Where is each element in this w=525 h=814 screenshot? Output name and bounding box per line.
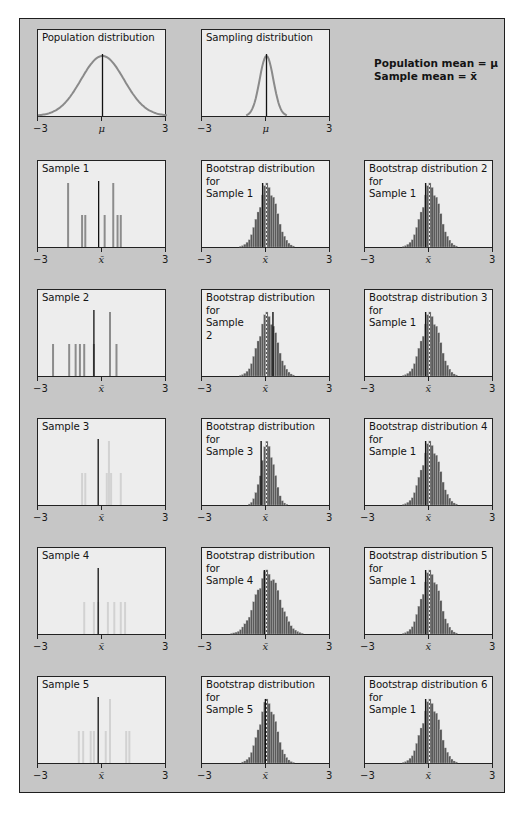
x-axis-ticks bbox=[37, 247, 168, 253]
tick-min-label: −3 bbox=[197, 770, 212, 781]
tick-min-label: −3 bbox=[197, 512, 212, 523]
tick-max-label: 3 bbox=[162, 254, 168, 265]
panel-title: Bootstrap distribution 5 for Sample 1 bbox=[369, 550, 487, 588]
x-axis-ticks bbox=[364, 505, 495, 511]
tick-center-label: x̄ bbox=[426, 512, 432, 523]
panel-sample1: Sample 1 bbox=[37, 160, 166, 248]
x-axis-ticks bbox=[201, 763, 332, 769]
tick-max-label: 3 bbox=[326, 770, 332, 781]
tick-max-label: 3 bbox=[162, 123, 168, 134]
x-axis-ticks bbox=[37, 763, 168, 769]
tick-max-label: 3 bbox=[162, 383, 168, 394]
tick-max-label: 3 bbox=[162, 641, 168, 652]
tick-center-label: x̄ bbox=[263, 770, 269, 781]
x-axis-ticks bbox=[201, 116, 332, 122]
panel-sampling: Sampling distribution bbox=[201, 29, 330, 117]
tick-max-label: 3 bbox=[326, 641, 332, 652]
tick-center-label: x̄ bbox=[99, 512, 105, 523]
panel-title: Sample 5 bbox=[42, 679, 89, 692]
x-axis-ticks bbox=[37, 505, 168, 511]
panel-boot5s1: Bootstrap distribution 5 for Sample 1 bbox=[364, 547, 493, 635]
panel-title: Sample 4 bbox=[42, 550, 89, 563]
tick-center-label: x̄ bbox=[99, 383, 105, 394]
panel-population: Population distribution bbox=[37, 29, 166, 117]
tick-center-label: x̄ bbox=[426, 254, 432, 265]
tick-center-label: x̄ bbox=[263, 383, 269, 394]
panel-boot2: Bootstrap distribution for Sample 2 bbox=[201, 289, 330, 377]
panel-title: Sampling distribution bbox=[206, 32, 313, 45]
panel-boot4s1: Bootstrap distribution 4 for Sample 1 bbox=[364, 418, 493, 506]
tick-max-label: 3 bbox=[326, 123, 332, 134]
panel-boot4: Bootstrap distribution for Sample 4 bbox=[201, 547, 330, 635]
panel-title: Bootstrap distribution 6 for Sample 1 bbox=[369, 679, 487, 717]
tick-min-label: −3 bbox=[197, 383, 212, 394]
tick-max-label: 3 bbox=[326, 512, 332, 523]
tick-center-label: x̄ bbox=[99, 254, 105, 265]
legend-population-mean: Population mean = μ bbox=[374, 57, 498, 70]
tick-max-label: 3 bbox=[162, 512, 168, 523]
tick-min-label: −3 bbox=[33, 770, 48, 781]
panel-title: Population distribution bbox=[42, 32, 155, 45]
panel-boot3: Bootstrap distribution for Sample 3 bbox=[201, 418, 330, 506]
tick-center-label: x̄ bbox=[99, 770, 105, 781]
panel-sample2: Sample 2 bbox=[37, 289, 166, 377]
x-axis-ticks bbox=[37, 634, 168, 640]
panel-boot1: Bootstrap distribution for Sample 1 bbox=[201, 160, 330, 248]
tick-max-label: 3 bbox=[162, 770, 168, 781]
panel-title: Bootstrap distribution for Sample 2 bbox=[206, 292, 315, 342]
tick-min-label: −3 bbox=[360, 512, 375, 523]
x-axis-ticks bbox=[201, 376, 332, 382]
tick-min-label: −3 bbox=[197, 123, 212, 134]
tick-max-label: 3 bbox=[489, 512, 495, 523]
tick-min-label: −3 bbox=[197, 641, 212, 652]
tick-min-label: −3 bbox=[33, 512, 48, 523]
panel-title: Bootstrap distribution for Sample 3 bbox=[206, 421, 315, 459]
tick-min-label: −3 bbox=[33, 123, 48, 134]
x-axis-ticks bbox=[37, 376, 168, 382]
panel-boot5: Bootstrap distribution for Sample 5 bbox=[201, 676, 330, 764]
tick-min-label: −3 bbox=[197, 254, 212, 265]
legend: Population mean = μ Sample mean = x̄ bbox=[374, 57, 498, 83]
x-axis-ticks bbox=[364, 634, 495, 640]
tick-max-label: 3 bbox=[489, 641, 495, 652]
tick-center-label: x̄ bbox=[263, 512, 269, 523]
tick-center-label: x̄ bbox=[263, 641, 269, 652]
x-axis-ticks bbox=[201, 634, 332, 640]
tick-max-label: 3 bbox=[489, 770, 495, 781]
panel-title: Bootstrap distribution for Sample 1 bbox=[206, 163, 315, 201]
tick-center-label: x̄ bbox=[99, 641, 105, 652]
tick-min-label: −3 bbox=[360, 770, 375, 781]
tick-min-label: −3 bbox=[33, 641, 48, 652]
x-axis-ticks bbox=[364, 763, 495, 769]
tick-center-label: μ bbox=[99, 123, 106, 134]
x-axis-ticks bbox=[201, 247, 332, 253]
tick-max-label: 3 bbox=[489, 383, 495, 394]
x-axis-ticks bbox=[201, 505, 332, 511]
tick-min-label: −3 bbox=[360, 383, 375, 394]
panel-title: Bootstrap distribution 2 for Sample 1 bbox=[369, 163, 487, 201]
panel-title: Bootstrap distribution for Sample 4 bbox=[206, 550, 315, 588]
x-axis-ticks bbox=[37, 116, 168, 122]
tick-min-label: −3 bbox=[360, 641, 375, 652]
tick-min-label: −3 bbox=[33, 383, 48, 394]
panel-sample5: Sample 5 bbox=[37, 676, 166, 764]
tick-max-label: 3 bbox=[489, 254, 495, 265]
panel-title: Bootstrap distribution 3 for Sample 1 bbox=[369, 292, 487, 330]
tick-center-label: x̄ bbox=[426, 641, 432, 652]
x-axis-ticks bbox=[364, 376, 495, 382]
panel-sample4: Sample 4 bbox=[37, 547, 166, 635]
tick-min-label: −3 bbox=[33, 254, 48, 265]
tick-center-label: x̄ bbox=[263, 254, 269, 265]
panel-boot6s1: Bootstrap distribution 6 for Sample 1 bbox=[364, 676, 493, 764]
panel-title: Bootstrap distribution 4 for Sample 1 bbox=[369, 421, 487, 459]
tick-center-label: x̄ bbox=[426, 383, 432, 394]
panel-title: Sample 1 bbox=[42, 163, 89, 176]
legend-sample-mean: Sample mean = x̄ bbox=[374, 70, 498, 83]
panel-sample3: Sample 3 bbox=[37, 418, 166, 506]
panel-title: Sample 2 bbox=[42, 292, 89, 305]
tick-center-label: x̄ bbox=[426, 770, 432, 781]
panel-title: Bootstrap distribution for Sample 5 bbox=[206, 679, 315, 717]
panel-boot2s1: Bootstrap distribution 2 for Sample 1 bbox=[364, 160, 493, 248]
tick-center-label: μ bbox=[263, 123, 270, 134]
x-axis-ticks bbox=[364, 247, 495, 253]
